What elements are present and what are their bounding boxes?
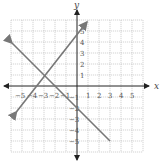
x-tick: −3 — [38, 92, 48, 100]
x-tick: 2 — [97, 92, 101, 100]
y-tick: −5 — [69, 138, 79, 146]
y-tick: −4 — [69, 127, 80, 135]
x-tick: −5 — [15, 92, 25, 100]
y-tick: 1 — [80, 72, 84, 80]
x-tick: 5 — [130, 92, 134, 100]
x-tick: 1 — [86, 92, 90, 100]
y-tick: −3 — [69, 116, 79, 124]
y-tick: 4 — [80, 39, 85, 47]
y-axis-label: y — [73, 0, 80, 10]
y-tick: 2 — [80, 61, 84, 69]
x-tick: 3 — [108, 92, 112, 100]
x-tick: 4 — [119, 92, 124, 100]
x-axis-label: x — [154, 81, 159, 91]
coordinate-graph: x y −5 −4 −3 −2 −1 1 2 3 4 5 5 4 3 2 1 −… — [0, 0, 163, 163]
y-tick: 3 — [80, 50, 84, 58]
x-tick: −2 — [49, 92, 59, 100]
